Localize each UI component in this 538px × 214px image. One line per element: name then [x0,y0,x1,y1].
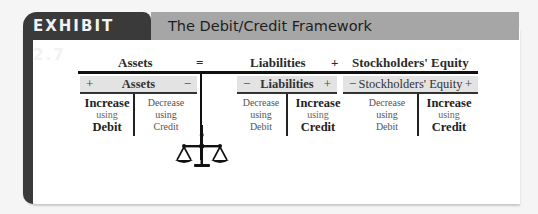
equity-credit-side: Increase using Credit [420,97,478,133]
liabilities-credit-side: Increase using Credit [289,97,347,133]
account-name: Assets [122,77,155,92]
credit-sign: + [324,76,331,92]
debit-sign: − [243,76,250,92]
equation-equals: = [196,55,203,71]
t-account-assets-header: + Assets − [80,76,197,94]
top-rule-divider [78,71,478,74]
t-account-equity-header: − Stockholders' Equity + [343,76,478,94]
scales-of-justice-icon [172,125,232,170]
liabilities-debit-side: Decrease using Debit [232,97,290,133]
t-account-liabilities-header: − Liabilities + [237,76,337,94]
exhibit-tab: EXHIBIT 2.7 [23,12,151,40]
assets-debit-side: Increase using Debit [78,97,136,133]
exhibit-left-border [23,28,33,204]
debit-sign: − [349,76,356,92]
account-name: Liabilities [260,77,313,92]
equation-liabilities: Liabilities [250,55,306,71]
exhibit-title: The Debit/Credit Framework [151,12,519,40]
equation-assets: Assets [118,55,153,71]
equation-equity: Stockholders' Equity [352,55,469,71]
credit-sign: + [465,76,472,92]
credit-sign: − [184,76,191,92]
account-name: Stockholders' Equity [359,77,463,92]
debit-sign: + [86,76,93,92]
equation-plus: + [331,55,338,71]
t-account-divider [417,94,419,136]
equity-debit-side: Decrease using Debit [358,97,416,133]
